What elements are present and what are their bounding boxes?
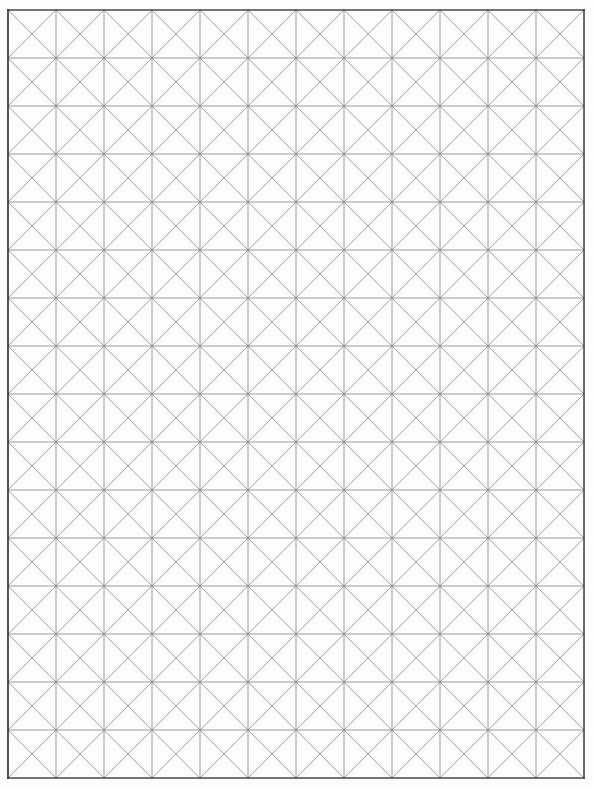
page-background	[0, 0, 595, 789]
graph-paper-grid	[0, 0, 595, 789]
graph-paper-sheet	[0, 0, 595, 789]
